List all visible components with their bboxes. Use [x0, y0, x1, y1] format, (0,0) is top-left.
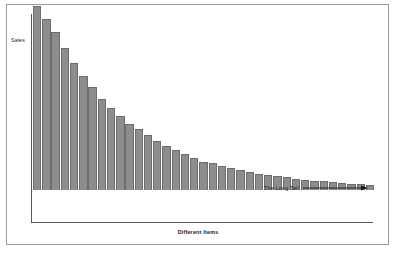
bar [79, 76, 87, 190]
bar [199, 162, 207, 191]
bar [255, 174, 263, 190]
bar [144, 135, 152, 190]
bar [88, 87, 96, 190]
bar [33, 6, 41, 190]
y-axis-line [31, 14, 32, 222]
bar [98, 99, 106, 190]
bar [236, 170, 244, 190]
annotation-label: The Long Tail [264, 185, 299, 191]
x-axis-line [31, 222, 373, 223]
bar [209, 163, 217, 190]
x-axis-label: Different Items [0, 229, 396, 235]
bar [181, 154, 189, 190]
bar [218, 166, 226, 190]
bar [153, 141, 161, 190]
bar [51, 32, 59, 190]
bar [246, 172, 254, 190]
long-tail-bar-chart: Sales Different Items The Long Tail [0, 0, 396, 254]
bar [190, 158, 198, 190]
bar [107, 108, 115, 190]
right-arrow-icon [303, 184, 369, 192]
long-tail-annotation: The Long Tail [264, 184, 369, 192]
bar [162, 146, 170, 190]
bar [125, 124, 133, 191]
bar [172, 150, 180, 190]
bar [135, 129, 143, 190]
bar [227, 168, 235, 190]
y-axis-label: Sales [11, 37, 25, 43]
bar [116, 116, 124, 190]
bar [61, 48, 69, 191]
bar [42, 19, 50, 190]
bar [70, 63, 78, 190]
